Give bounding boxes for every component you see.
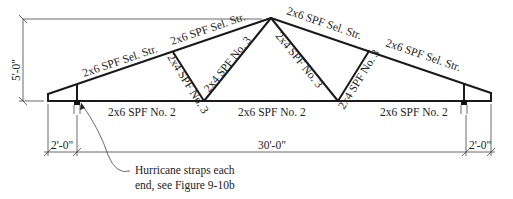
leader-arrowhead-icon xyxy=(80,103,85,110)
web-right-inner-label: 2x4 SPF No. 3 xyxy=(273,30,325,90)
left-overhang-dimension: 2'-0" xyxy=(51,139,73,151)
truss-diagram: 5'-0" 2x6 SPF Sel. Str. 2x6 SPF Sel. Str… xyxy=(0,0,513,199)
height-dimension-label: 5'-0" xyxy=(10,59,22,81)
note-line-2: end, see Figure 9-10b xyxy=(135,179,235,192)
left-hurricane-strap-icon xyxy=(74,100,80,114)
right-hurricane-strap-icon xyxy=(461,100,467,114)
bottom-chord-right-label: 2x6 SPF No. 2 xyxy=(380,106,448,118)
note-line-1: Hurricane straps each xyxy=(135,164,235,177)
span-dimension: 30'-0" xyxy=(258,139,286,151)
top-chord-left-upper-label: 2x6 SPF Sel. Str. xyxy=(169,10,247,47)
web-left-inner-label: 2x4 SPF No. 3 xyxy=(201,34,253,94)
top-chord-right-lower-label: 2x6 SPF Sel. Str. xyxy=(384,37,462,74)
bottom-chord-center-label: 2x6 SPF No. 2 xyxy=(238,106,306,118)
bottom-chord-left-label: 2x6 SPF No. 2 xyxy=(108,106,176,118)
right-overhang-dimension: 2'-0" xyxy=(469,139,491,151)
